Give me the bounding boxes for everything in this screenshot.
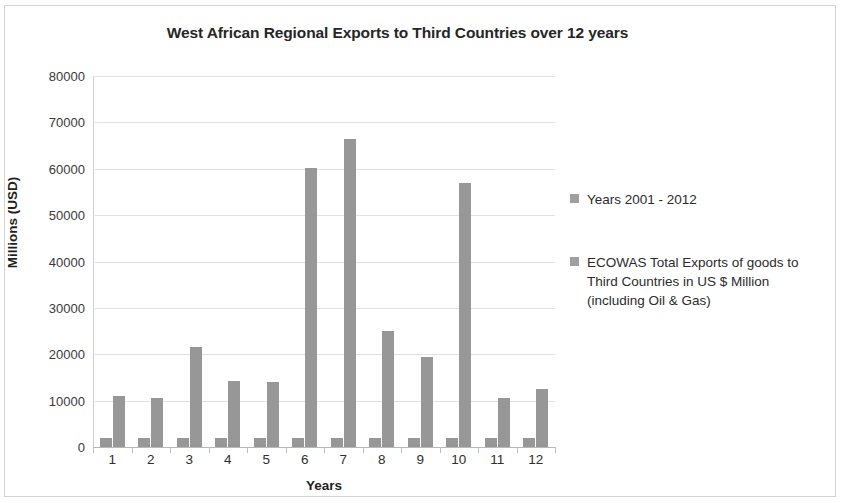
x-axis: 123456789101112 xyxy=(93,452,555,474)
bar-group xyxy=(401,76,440,447)
x-tick-label: 7 xyxy=(324,452,363,474)
bar-group xyxy=(170,76,209,447)
bar xyxy=(151,398,163,447)
x-tick-label: 12 xyxy=(517,452,556,474)
legend-label: ECOWAS Total Exports of goods to Third C… xyxy=(587,253,825,310)
bar xyxy=(498,398,510,447)
bars-layer xyxy=(93,76,555,447)
x-tick-mark xyxy=(478,447,479,453)
x-axis-title: Years xyxy=(93,478,555,493)
x-tick-mark xyxy=(247,447,248,453)
bar-group xyxy=(247,76,286,447)
bar xyxy=(382,331,394,447)
x-tick-label: 10 xyxy=(440,452,479,474)
bar xyxy=(536,389,548,447)
x-tick-mark xyxy=(440,447,441,453)
bar xyxy=(177,438,189,447)
bar xyxy=(344,139,356,447)
x-tick-label: 4 xyxy=(209,452,248,474)
bar xyxy=(369,438,381,447)
bar-group xyxy=(132,76,171,447)
bar xyxy=(305,168,317,447)
y-axis-title: Millions (USD) xyxy=(5,138,20,308)
bar xyxy=(190,347,202,447)
bar xyxy=(421,357,433,447)
bar xyxy=(113,396,125,447)
bar-group xyxy=(324,76,363,447)
bar-group xyxy=(517,76,556,447)
bar xyxy=(523,438,535,447)
bar xyxy=(485,438,497,447)
legend-swatch-icon xyxy=(570,257,579,266)
x-tick-mark xyxy=(93,447,94,453)
x-tick-mark xyxy=(517,447,518,453)
y-tick-label: 0 xyxy=(7,440,85,455)
x-tick-mark xyxy=(363,447,364,453)
y-tick-label: 70000 xyxy=(7,115,85,130)
bar xyxy=(459,183,471,447)
legend-swatch-icon xyxy=(570,194,579,203)
bar xyxy=(408,438,420,447)
x-tick-mark xyxy=(555,447,556,453)
bar xyxy=(331,438,343,447)
bar xyxy=(267,382,279,447)
bar xyxy=(215,438,227,447)
x-tick-label: 9 xyxy=(401,452,440,474)
x-tick-label: 2 xyxy=(132,452,171,474)
legend-label: Years 2001 - 2012 xyxy=(587,190,697,209)
x-tick-mark xyxy=(132,447,133,453)
bar xyxy=(254,438,266,447)
bar xyxy=(228,381,240,447)
bar xyxy=(292,438,304,447)
bar xyxy=(100,438,112,447)
bar xyxy=(446,438,458,447)
y-tick-label: 80000 xyxy=(7,69,85,84)
bar-group xyxy=(478,76,517,447)
chart-container: West African Regional Exports to Third C… xyxy=(0,0,843,503)
x-tick-label: 1 xyxy=(93,452,132,474)
bar-group xyxy=(209,76,248,447)
legend-entry[interactable]: Years 2001 - 2012 xyxy=(570,190,825,209)
x-tick-mark xyxy=(170,447,171,453)
x-tick-mark xyxy=(286,447,287,453)
bar-group xyxy=(363,76,402,447)
x-tick-label: 6 xyxy=(286,452,325,474)
bar-group xyxy=(93,76,132,447)
chart-title: West African Regional Exports to Third C… xyxy=(0,24,795,42)
legend-entry[interactable]: ECOWAS Total Exports of goods to Third C… xyxy=(570,253,825,310)
x-tick-label: 3 xyxy=(170,452,209,474)
y-tick-label: 10000 xyxy=(7,393,85,408)
x-tick-label: 8 xyxy=(363,452,402,474)
x-tick-label: 11 xyxy=(478,452,517,474)
x-tick-label: 5 xyxy=(247,452,286,474)
chart-legend: Years 2001 - 2012ECOWAS Total Exports of… xyxy=(570,190,825,355)
y-tick-label: 20000 xyxy=(7,347,85,362)
bar xyxy=(138,438,150,447)
bar-group xyxy=(440,76,479,447)
x-tick-mark xyxy=(209,447,210,453)
x-tick-mark xyxy=(401,447,402,453)
bar-group xyxy=(286,76,325,447)
x-tick-mark xyxy=(324,447,325,453)
